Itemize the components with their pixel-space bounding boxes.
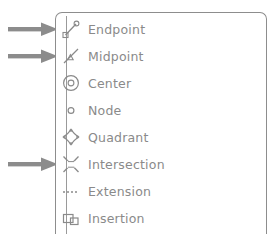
snap-mode-row[interactable]: Intersection	[56, 151, 268, 178]
quadrant-icon	[56, 124, 86, 151]
snap-mode-row[interactable]: Midpoint	[56, 43, 268, 70]
snap-mode-label: Intersection	[86, 157, 165, 172]
endpoint-icon	[56, 16, 86, 43]
snap-mode-label: Center	[86, 76, 131, 91]
center-icon	[56, 70, 86, 97]
object-snap-modes-panel: EndpointMidpointCenterNodeQuadrantInters…	[55, 12, 267, 234]
screenshot-root: EndpointMidpointCenterNodeQuadrantInters…	[0, 0, 276, 234]
snap-mode-label: Endpoint	[86, 22, 145, 37]
snap-mode-row[interactable]: Insertion	[56, 205, 268, 232]
annotation-right-arrow-icon	[8, 49, 60, 64]
insertion-icon	[56, 205, 86, 232]
extension-icon	[56, 178, 86, 205]
node-icon	[56, 97, 86, 124]
intersection-icon	[56, 151, 86, 178]
snap-mode-list: EndpointMidpointCenterNodeQuadrantInters…	[56, 16, 268, 232]
snap-mode-label: Extension	[86, 184, 151, 199]
snap-mode-label: Insertion	[86, 211, 145, 226]
snap-mode-row[interactable]: Endpoint	[56, 16, 268, 43]
snap-mode-row[interactable]: Quadrant	[56, 124, 268, 151]
snap-mode-row[interactable]: Center	[56, 70, 268, 97]
snap-mode-label: Quadrant	[86, 130, 149, 145]
snap-mode-label: Node	[86, 103, 121, 118]
snap-mode-label: Midpoint	[86, 49, 144, 64]
snap-mode-row[interactable]: Node	[56, 97, 268, 124]
midpoint-icon	[56, 43, 86, 70]
snap-mode-row[interactable]: Extension	[56, 178, 268, 205]
annotation-right-arrow-icon	[8, 157, 60, 172]
annotation-right-arrow-icon	[8, 22, 60, 37]
